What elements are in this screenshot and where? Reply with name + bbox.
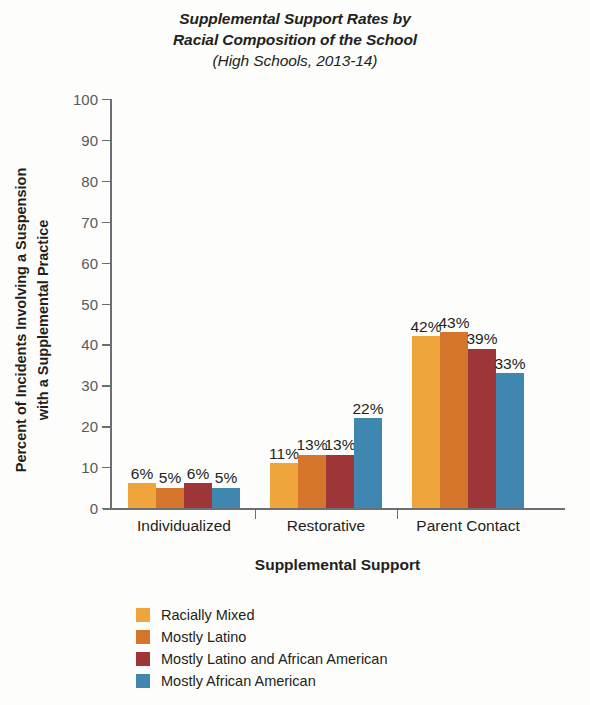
bar[interactable]: 11%: [270, 463, 298, 508]
y-axis-tick: [102, 467, 110, 468]
legend-color-swatch: [136, 630, 150, 644]
chart-page: Supplemental Support Rates by Racial Com…: [0, 0, 590, 705]
legend-label: Mostly Latino: [161, 630, 246, 645]
bar-group: 42%43%39%33%: [412, 99, 524, 508]
bar-fill: [496, 373, 524, 508]
y-axis-tick: [102, 99, 110, 100]
y-axis-tick-label: 20: [52, 419, 98, 434]
legend-item[interactable]: Mostly Latino and African American: [136, 648, 387, 670]
bar[interactable]: 42%: [412, 336, 440, 508]
bar[interactable]: 13%: [298, 455, 326, 508]
legend-color-swatch: [136, 652, 150, 666]
y-axis-tick: [102, 304, 110, 305]
legend-color-swatch: [136, 608, 150, 622]
y-axis-title-line-2: with a Supplemental Practice: [35, 220, 51, 421]
bar[interactable]: 6%: [184, 483, 212, 508]
bar-group: 11%13%13%22%: [270, 99, 382, 508]
y-axis-tick-label: 50: [52, 296, 98, 311]
y-axis-tick: [102, 140, 110, 141]
bar[interactable]: 39%: [468, 349, 496, 509]
bar-fill: [354, 418, 382, 508]
legend-item[interactable]: Racially Mixed: [136, 604, 387, 626]
bar[interactable]: 43%: [440, 332, 468, 508]
bar-value-label: 5%: [159, 470, 181, 486]
bar-group: 6%5%6%5%: [128, 99, 240, 508]
y-axis-tick: [102, 385, 110, 386]
bar-fill: [184, 483, 212, 508]
bar-value-label: 13%: [296, 437, 327, 453]
bar[interactable]: 22%: [354, 418, 382, 508]
legend-label: Racially Mixed: [161, 608, 254, 623]
bar[interactable]: 5%: [156, 488, 184, 508]
bar-fill: [326, 455, 354, 508]
bar[interactable]: 6%: [128, 483, 156, 508]
bar[interactable]: 13%: [326, 455, 354, 508]
bar-value-label: 5%: [215, 470, 237, 486]
legend-label: Mostly Latino and African American: [161, 652, 387, 667]
bar-value-label: 33%: [494, 356, 525, 372]
chart-title: Supplemental Support Rates by Racial Com…: [0, 8, 590, 71]
bar-fill: [156, 488, 184, 508]
y-axis-tick-label: 40: [52, 337, 98, 352]
x-axis-title: Supplemental Support: [110, 556, 565, 574]
bar-fill: [298, 455, 326, 508]
y-axis-line: [110, 99, 112, 508]
y-axis-tick-label: 30: [52, 378, 98, 393]
y-axis-tick-label: 10: [52, 460, 98, 475]
bar-value-label: 6%: [131, 466, 153, 482]
y-axis-tick-label: 60: [52, 255, 98, 270]
bar-fill: [128, 483, 156, 508]
y-axis-title: Percent of Incidents Involving a Suspens…: [10, 120, 54, 520]
y-axis-tick-label: 70: [52, 214, 98, 229]
y-axis-tick: [102, 426, 110, 427]
bar-fill: [212, 488, 240, 508]
plot-area: 0102030405060708090100 6%5%6%5%11%13%13%…: [110, 99, 565, 508]
x-axis-category-label: Restorative: [287, 517, 365, 535]
y-axis-title-container: Percent of Incidents Involving a Suspens…: [6, 120, 58, 520]
bar[interactable]: 5%: [212, 488, 240, 508]
chart-title-line-1: Supplemental Support Rates by: [0, 8, 590, 29]
y-axis-tick: [102, 181, 110, 182]
bar-value-label: 11%: [269, 446, 299, 462]
y-axis-tick-label: 90: [52, 132, 98, 147]
bar-fill: [440, 332, 468, 508]
bar-fill: [270, 463, 298, 508]
bar-value-label: 6%: [187, 466, 209, 482]
bar-value-label: 22%: [352, 401, 383, 417]
y-axis-tick: [102, 508, 110, 509]
x-axis-separator-tick: [255, 508, 256, 519]
y-axis-tick: [102, 263, 110, 264]
bar-value-label: 43%: [438, 315, 469, 331]
y-axis-tick: [102, 344, 110, 345]
bar-value-label: 39%: [466, 331, 497, 347]
x-axis-separator-tick: [397, 508, 398, 519]
legend-color-swatch: [136, 674, 150, 688]
bar-value-label: 13%: [324, 437, 355, 453]
legend-label: Mostly African American: [161, 674, 316, 689]
bar-fill: [468, 349, 496, 509]
legend: Racially MixedMostly LatinoMostly Latino…: [136, 604, 387, 692]
legend-item[interactable]: Mostly African American: [136, 670, 387, 692]
x-axis-line: [103, 508, 565, 510]
y-axis-tick-label: 0: [52, 501, 98, 516]
bar[interactable]: 33%: [496, 373, 524, 508]
y-axis-tick-label: 80: [52, 173, 98, 188]
x-axis-category-label: Individualized: [137, 517, 231, 535]
chart-title-line-2: Racial Composition of the School: [0, 29, 590, 50]
x-axis-category-label: Parent Contact: [416, 517, 519, 535]
y-axis-tick: [102, 222, 110, 223]
legend-item[interactable]: Mostly Latino: [136, 626, 387, 648]
y-axis-tick-label: 100: [52, 92, 98, 107]
bar-value-label: 42%: [410, 319, 441, 335]
bar-fill: [412, 336, 440, 508]
chart-subtitle: (High Schools, 2013-14): [0, 50, 590, 71]
y-axis-title-line-1: Percent of Incidents Involving a Suspens…: [13, 168, 29, 473]
